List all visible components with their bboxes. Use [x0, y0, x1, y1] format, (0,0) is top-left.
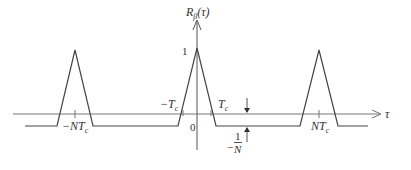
offset-denominator: N — [234, 143, 242, 156]
arrow-up-icon — [244, 127, 250, 132]
y-axis-label: Rβ(τ) — [186, 6, 210, 18]
tau-label: τ — [385, 108, 389, 120]
offset-numerator: 1 — [234, 130, 242, 143]
offset-fraction: 1 N — [234, 130, 242, 156]
ntc-label: NTc — [311, 120, 329, 132]
minus-ntc-label: −NTc — [62, 120, 88, 132]
diagram-graphics — [0, 0, 411, 170]
origin-label: 0 — [190, 122, 196, 133]
tc-label: Tc — [218, 98, 228, 110]
minus-tc-label: −Tc — [160, 98, 178, 110]
peak-value-label: 1 — [182, 46, 188, 57]
offset-sign: − — [227, 142, 233, 153]
arrow-down-icon — [244, 108, 250, 113]
autocorrelation-diagram: Rβ(τ) 1 0 −Tc Tc −NTc NTc τ − 1 N — [0, 0, 411, 170]
